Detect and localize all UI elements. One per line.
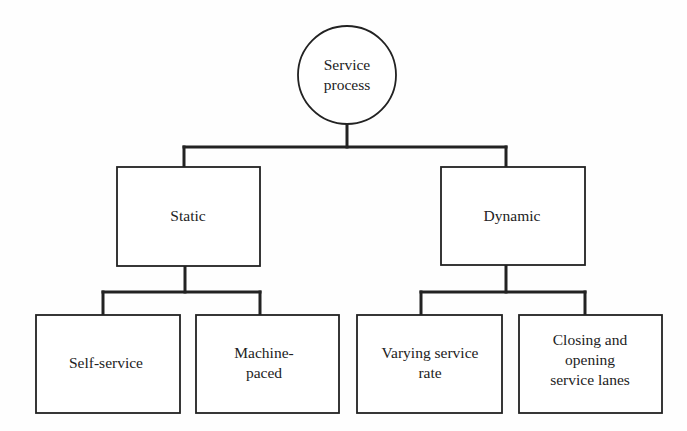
node-label-line: rate [418,364,441,381]
node-label-line: Self-service [69,354,143,371]
node-label-line: opening [565,351,615,368]
node-static: Static [117,167,260,266]
node-varying-service-rate: Varying service rate [357,315,502,413]
node-label-line: Dynamic [484,207,541,224]
node-machine-paced: Machine- paced [196,315,339,413]
node-label-line: Closing and [553,331,628,348]
connector-root [184,124,506,167]
node-closing-opening-lanes: Closing and opening service lanes [519,315,662,413]
node-label-line: process [324,76,371,93]
diagram-canvas: Service process Static Dynamic Self-serv… [0,0,687,431]
node-dynamic: Dynamic [441,167,585,265]
connector-static [103,266,260,315]
node-service-process: Service process [298,26,396,124]
connector-dynamic [421,265,585,315]
node-label-line: Machine- [234,344,293,361]
node-label-line: Varying service [382,344,479,361]
node-label-line: Static [170,207,205,224]
node-label-line: service lanes [550,371,630,388]
node-label-line: paced [246,364,282,381]
node-label-line: Service [324,56,371,73]
node-self-service: Self-service [36,315,180,413]
